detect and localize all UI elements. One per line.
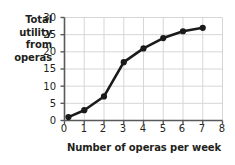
plot-area (0, 0, 235, 165)
total-utility-chart: Total utility from operas 30 25 20 15 10… (0, 0, 235, 165)
gridlines (65, 18, 223, 121)
data-markers (65, 25, 206, 120)
